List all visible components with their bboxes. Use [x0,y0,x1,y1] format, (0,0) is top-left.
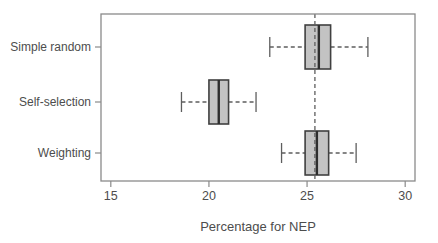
boxplot-simple-random [270,25,368,69]
x-tick-label: 30 [398,189,412,203]
category-label: Weighting [38,146,91,160]
x-tick-label: 15 [104,189,118,203]
boxplot-weighting [282,131,357,175]
boxplot-self-selection [181,80,256,124]
category-label: Simple random [10,40,91,54]
boxplot-canvas: Simple randomSelf-selectionWeighting1520… [0,0,438,243]
x-tick-label: 25 [300,189,314,203]
boxplot-figure: Simple randomSelf-selectionWeighting1520… [0,0,438,243]
x-axis-title: Percentage for NEP [200,219,316,234]
x-tick-label: 20 [202,189,216,203]
category-label: Self-selection [19,95,91,109]
